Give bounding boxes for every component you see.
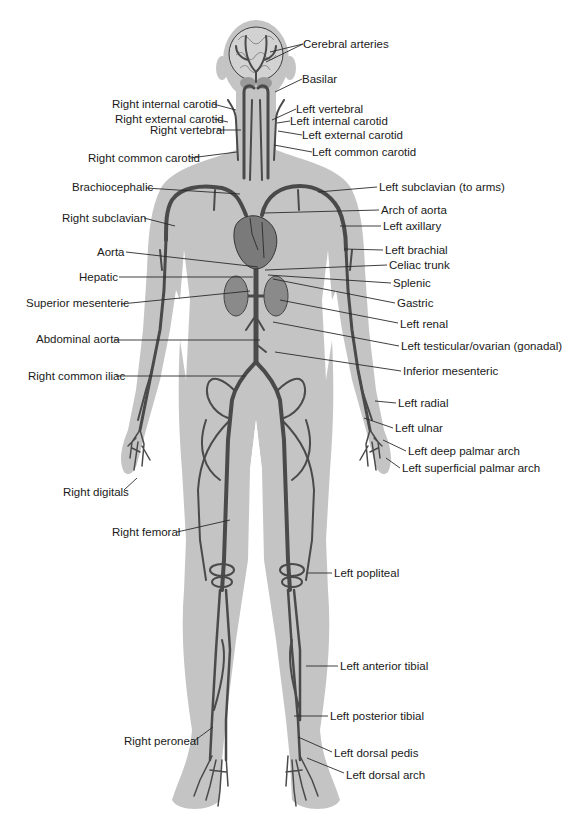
label-hepatic: Hepatic <box>79 271 118 284</box>
label-right-digitals: Right digitals <box>63 486 129 499</box>
label-right-peroneal: Right peroneal <box>124 735 199 748</box>
arterial-system-diagram: Cerebral arteries Basilar Right internal… <box>0 0 578 836</box>
label-superior-mesenteric: Superior mesenteric <box>26 297 129 310</box>
label-left-common-carotid: Left common carotid <box>312 146 416 159</box>
label-right-internal-carotid: Right internal carotid <box>112 98 217 111</box>
label-gastric: Gastric <box>397 297 433 310</box>
label-abdominal-aorta: Abdominal aorta <box>36 333 120 346</box>
label-splenic: Splenic <box>393 277 431 290</box>
label-right-common-carotid: Right common carotid <box>88 152 200 165</box>
label-left-posterior-tibial: Left posterior tibial <box>330 710 424 723</box>
label-left-axillary: Left axillary <box>383 220 441 233</box>
label-cerebral-arteries: Cerebral arteries <box>303 38 389 51</box>
label-left-dorsal-arch: Left dorsal arch <box>346 769 425 782</box>
body-figure <box>0 0 578 836</box>
label-basilar: Basilar <box>302 73 337 86</box>
label-left-testicular-ovarian: Left testicular/ovarian (gonadal) <box>401 340 562 353</box>
label-left-radial: Left radial <box>398 397 449 410</box>
label-right-femoral: Right femoral <box>112 526 180 539</box>
label-arch-of-aorta: Arch of aorta <box>381 204 447 217</box>
label-left-brachial: Left brachial <box>385 244 448 257</box>
leader-left-internal-carotid <box>277 121 290 123</box>
label-left-ulnar: Left ulnar <box>395 422 443 435</box>
label-right-common-iliac: Right common iliac <box>28 370 125 383</box>
label-left-external-carotid: Left external carotid <box>302 129 403 142</box>
leader-left-common-carotid <box>274 145 312 152</box>
label-celiac-trunk: Celiac trunk <box>389 259 450 272</box>
label-inferior-mesenteric: Inferior mesenteric <box>403 365 498 378</box>
label-left-dorsal-pedis: Left dorsal pedis <box>334 747 418 760</box>
label-left-internal-carotid: Left internal carotid <box>290 115 388 128</box>
label-left-superficial-palmar-arch: Left superficial palmar arch <box>402 462 540 475</box>
leader-left-external-carotid <box>278 131 302 135</box>
label-aorta: Aorta <box>97 246 125 259</box>
label-right-vertebral: Right vertebral <box>150 124 225 137</box>
label-right-subclavian: Right subclavian <box>62 212 146 225</box>
label-left-subclavian: Left subclavian (to arms) <box>379 181 505 194</box>
label-left-anterior-tibial: Left anterior tibial <box>340 660 428 673</box>
label-left-renal: Left renal <box>400 318 448 331</box>
label-brachiocephalic: Brachiocephalic <box>72 181 153 194</box>
label-left-popliteal: Left popliteal <box>334 567 399 580</box>
label-left-deep-palmar-arch: Left deep palmar arch <box>408 445 520 458</box>
